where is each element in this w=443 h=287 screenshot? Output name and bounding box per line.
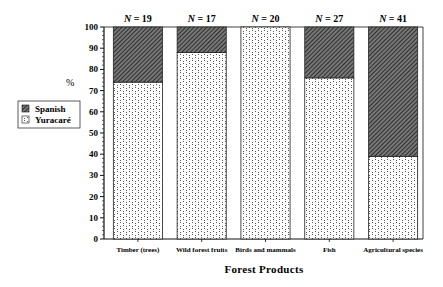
bar-spanish-timber-trees — [113, 27, 162, 82]
y-tick-label: 30 — [89, 170, 99, 180]
y-tick-label: 0 — [94, 234, 99, 244]
bar-yuracar-wild-forest-fruits — [177, 52, 226, 239]
sample-size-label: N = 19 — [123, 13, 152, 24]
y-tick-label: 90 — [89, 43, 99, 53]
sample-size-labels: N = 19N = 17N = 20N = 27N = 41 — [123, 13, 407, 24]
legend-swatch-spanish — [22, 105, 29, 112]
y-tick-label: 10 — [89, 213, 99, 223]
y-tick-label: 40 — [89, 149, 99, 159]
y-tick-label: 60 — [89, 107, 99, 117]
bar-yuracar-agricultural-species — [369, 156, 418, 239]
category-label: Wild forest fruits — [176, 246, 228, 254]
y-tick-label: 20 — [89, 192, 99, 202]
category-labels: Timber (trees)Wild forest fruitsBirds an… — [116, 239, 423, 254]
sample-size-label: N = 20 — [251, 13, 280, 24]
category-label: Agricultural species — [363, 246, 423, 254]
y-axis-label: % — [66, 77, 74, 88]
category-label: Timber (trees) — [116, 246, 160, 254]
y-tick-label: 50 — [89, 128, 99, 138]
bar-yuracar-birds-and-mammals — [241, 27, 290, 239]
x-axis-label: Forest Products — [225, 263, 304, 275]
bar-spanish-wild-forest-fruits — [177, 27, 226, 52]
y-ticks: 0102030405060708090100 — [85, 22, 105, 244]
stacked-bar-chart: 0102030405060708090100 Timber (trees)Wil… — [0, 0, 443, 287]
y-tick-label: 70 — [89, 86, 99, 96]
bar-spanish-agricultural-species — [369, 27, 418, 156]
y-tick-label: 100 — [85, 22, 99, 32]
sample-size-label: N = 27 — [314, 13, 343, 24]
category-label: Birds and mammals — [235, 246, 296, 254]
bar-yuracar-fish — [305, 78, 354, 239]
category-label: Fish — [323, 246, 336, 254]
sample-size-label: N = 17 — [187, 13, 216, 24]
sample-size-label: N = 41 — [378, 13, 407, 24]
legend: Spanish Yuracaré — [18, 101, 80, 128]
bars — [113, 27, 417, 239]
bar-spanish-fish — [305, 27, 354, 78]
legend-swatch-yuracare — [22, 116, 29, 123]
legend-label-spanish: Spanish — [35, 104, 66, 114]
legend-label-yuracare: Yuracaré — [35, 115, 71, 125]
bar-yuracar-timber-trees — [113, 82, 162, 239]
y-tick-label: 80 — [89, 64, 99, 74]
